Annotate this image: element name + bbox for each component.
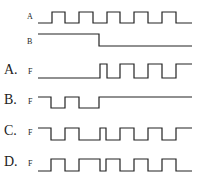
signal-label-c: F [28, 128, 33, 137]
signal-label-b: F [28, 97, 33, 106]
option-waveform-d [38, 159, 192, 171]
option-waveform-a [38, 64, 192, 78]
option-waveform-b [38, 97, 192, 108]
input-label-b: B [27, 37, 32, 46]
input-waveform-a [38, 12, 192, 23]
input-waveform-b [38, 34, 192, 46]
option-label-c: C. [4, 123, 17, 138]
signal-label-d: F [28, 159, 33, 168]
signal-label-a: F [28, 67, 33, 76]
option-label-d: D. [4, 154, 18, 169]
option-label-a: A. [4, 62, 18, 77]
timing-diagram: ABA.FB.FC.FD.F [0, 0, 201, 180]
input-label-a: A [27, 12, 33, 21]
option-waveform-c [38, 128, 192, 140]
option-label-b: B. [4, 92, 17, 107]
